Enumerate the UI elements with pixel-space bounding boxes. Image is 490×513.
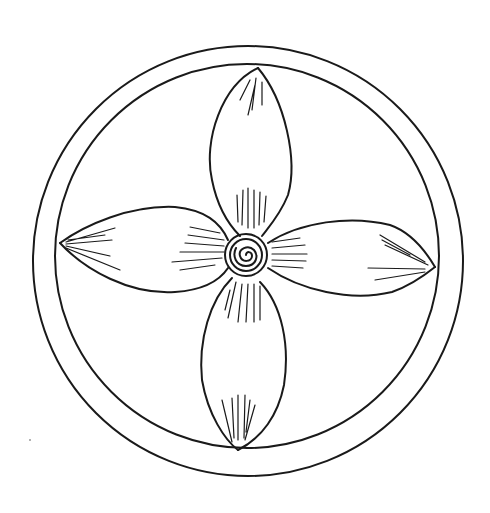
petal-bottom bbox=[201, 278, 286, 450]
petal-right bbox=[268, 221, 435, 296]
speck bbox=[29, 439, 31, 441]
flower-medallion-drawing bbox=[0, 0, 490, 513]
petal-top bbox=[210, 68, 292, 236]
spiral-center bbox=[225, 234, 267, 276]
inner-ring bbox=[55, 64, 439, 448]
petal-left bbox=[60, 207, 228, 292]
